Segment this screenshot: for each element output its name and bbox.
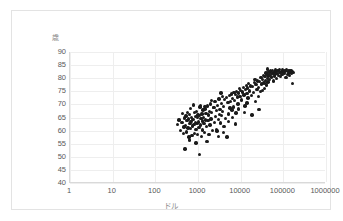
y-tick-label: 55 bbox=[44, 140, 66, 148]
scatter-point bbox=[209, 102, 212, 105]
scatter-point bbox=[198, 153, 201, 156]
y-tick-label: 45 bbox=[44, 166, 66, 174]
y-axis-tick-labels: 9085807570656055504540 bbox=[44, 52, 66, 183]
scatter-point bbox=[291, 71, 294, 74]
scatter-point bbox=[243, 111, 246, 114]
y-tick-label: 40 bbox=[44, 179, 66, 187]
y-tick-label: 65 bbox=[44, 114, 66, 122]
scatter-point bbox=[257, 108, 260, 111]
y-tick-label: 50 bbox=[44, 153, 66, 161]
scatter-point bbox=[185, 130, 188, 133]
scatter-point bbox=[217, 97, 220, 100]
scatter-point bbox=[254, 100, 257, 103]
scatter-point bbox=[234, 122, 237, 125]
scatter-point bbox=[246, 96, 249, 99]
scatter-point bbox=[229, 100, 232, 103]
scatter-point bbox=[222, 131, 225, 134]
scatter-point bbox=[257, 86, 260, 89]
x-tick-label: 1000000 bbox=[310, 187, 339, 195]
gridline bbox=[113, 52, 114, 182]
scatter-point bbox=[222, 125, 225, 128]
scatter-point bbox=[183, 147, 186, 150]
scatter-point bbox=[257, 95, 260, 98]
scatter-point bbox=[272, 79, 275, 82]
chart-screenshot: 歳 9085807570656055504540 110100100010000… bbox=[0, 0, 343, 221]
plot-area bbox=[69, 52, 325, 183]
scatter-point bbox=[225, 135, 228, 138]
y-tick-label: 90 bbox=[44, 48, 66, 56]
scatter-point bbox=[245, 101, 248, 104]
scatter-point bbox=[210, 111, 213, 114]
scatter-point bbox=[232, 105, 235, 108]
y-tick-label: 85 bbox=[44, 61, 66, 69]
scatter-point bbox=[217, 135, 220, 138]
gridline bbox=[326, 52, 327, 182]
scatter-point bbox=[180, 121, 183, 124]
gridline bbox=[241, 52, 242, 182]
scatter-point bbox=[189, 107, 192, 110]
scatter-point bbox=[192, 103, 195, 106]
scatter-point bbox=[219, 91, 222, 94]
scatter-point bbox=[237, 107, 240, 110]
x-tick-label: 10000 bbox=[229, 187, 250, 195]
y-tick-label: 80 bbox=[44, 74, 66, 82]
gridline bbox=[70, 183, 325, 184]
scatter-point bbox=[208, 123, 211, 126]
scatter-point bbox=[194, 141, 197, 144]
y-axis-title: 歳 bbox=[52, 33, 59, 42]
scatter-point bbox=[284, 76, 287, 79]
scatter-point bbox=[203, 131, 206, 134]
scatter-point bbox=[252, 91, 255, 94]
x-axis-title: ドル bbox=[12, 200, 330, 211]
scatter-point bbox=[248, 89, 251, 92]
scatter-point bbox=[250, 94, 253, 97]
scatter-point bbox=[240, 98, 243, 101]
scatter-point bbox=[263, 87, 266, 90]
y-tick-label: 60 bbox=[44, 127, 66, 135]
scatter-point bbox=[265, 83, 268, 86]
scatter-point bbox=[207, 133, 210, 136]
scatter-point bbox=[222, 105, 225, 108]
scatter-point bbox=[221, 110, 224, 113]
scatter-point bbox=[236, 102, 239, 105]
gridline bbox=[155, 52, 156, 182]
x-axis-tick-labels: 1101001000100001000001000000 bbox=[69, 187, 325, 197]
scatter-point bbox=[243, 104, 246, 107]
scatter-point bbox=[203, 105, 206, 108]
scatter-point bbox=[205, 140, 208, 143]
scatter-point bbox=[213, 100, 216, 103]
chart-frame: 歳 9085807570656055504540 110100100010000… bbox=[11, 10, 331, 210]
gridline bbox=[70, 52, 71, 182]
scatter-point bbox=[230, 108, 233, 111]
scatter-point bbox=[227, 112, 230, 115]
scatter-point bbox=[212, 106, 215, 109]
y-tick-label: 70 bbox=[44, 100, 66, 108]
x-tick-label: 1 bbox=[67, 187, 71, 195]
x-tick-label: 100 bbox=[148, 187, 161, 195]
scatter-point bbox=[176, 123, 179, 126]
scatter-point bbox=[200, 135, 203, 138]
scatter-point bbox=[216, 104, 219, 107]
x-tick-label: 1000 bbox=[189, 187, 206, 195]
scatter-point bbox=[250, 113, 253, 116]
scatter-point bbox=[220, 114, 223, 117]
x-tick-label: 100000 bbox=[270, 187, 295, 195]
scatter-point bbox=[234, 111, 237, 114]
scatter-point bbox=[227, 120, 230, 123]
scatter-point bbox=[213, 121, 216, 124]
scatter-point bbox=[209, 117, 212, 120]
y-tick-label: 75 bbox=[44, 87, 66, 95]
x-tick-label: 10 bbox=[107, 187, 115, 195]
scatter-point bbox=[188, 138, 191, 141]
scatter-point bbox=[291, 82, 294, 85]
